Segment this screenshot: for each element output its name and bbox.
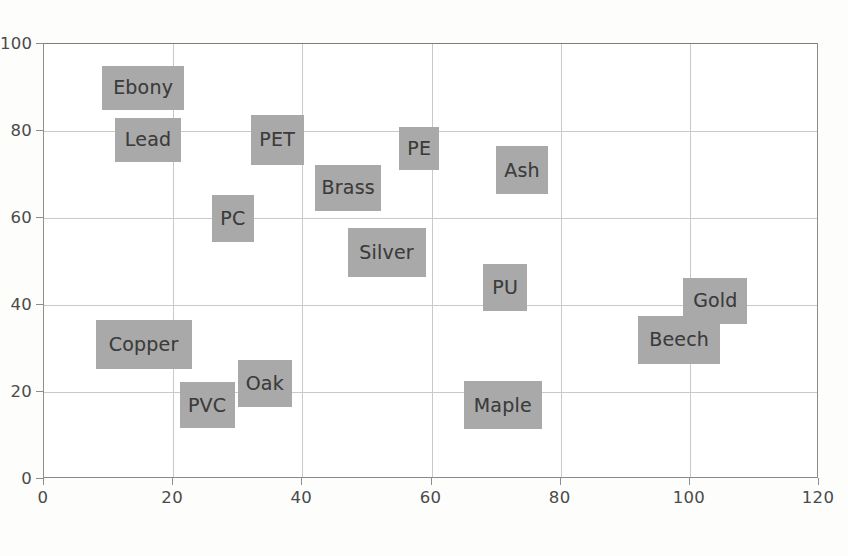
scatter-chart: EbonyLeadPETPEAshBrassPCSilverPUGoldBeec… <box>0 0 848 556</box>
x-tick-label: 100 <box>673 488 705 507</box>
data-point-label: PE <box>399 127 439 170</box>
x-tick-label: 20 <box>161 488 183 507</box>
y-tick-mark <box>36 43 44 44</box>
y-tick-mark <box>36 391 44 392</box>
x-tick-label: 80 <box>549 488 571 507</box>
data-point-label: Silver <box>348 228 426 277</box>
x-tick-label: 60 <box>420 488 442 507</box>
gridline-vertical <box>302 44 303 477</box>
x-tick-mark <box>301 478 302 485</box>
plot-area: EbonyLeadPETPEAshBrassPCSilverPUGoldBeec… <box>43 43 818 478</box>
x-tick-label: 40 <box>291 488 313 507</box>
y-tick-label: 60 <box>0 208 32 227</box>
gridline-vertical <box>561 44 562 477</box>
x-tick-label: 0 <box>38 488 49 507</box>
x-tick-mark <box>689 478 690 485</box>
data-point-label: Ash <box>496 146 548 194</box>
data-point-label: PET <box>251 115 304 165</box>
data-point-label: PVC <box>180 382 235 428</box>
data-point-label: Brass <box>315 165 381 211</box>
y-tick-label: 80 <box>0 121 32 140</box>
y-tick-mark <box>36 478 44 479</box>
x-tick-mark <box>431 478 432 485</box>
gridline-vertical <box>432 44 433 477</box>
y-tick-mark <box>36 217 44 218</box>
x-tick-mark <box>172 478 173 485</box>
y-tick-mark <box>36 304 44 305</box>
data-point-label: Oak <box>238 360 292 407</box>
x-tick-mark <box>43 478 44 485</box>
x-tick-label: 120 <box>802 488 834 507</box>
data-point-label: PC <box>212 195 254 242</box>
x-tick-mark <box>560 478 561 485</box>
data-point-label: Lead <box>115 118 181 162</box>
y-tick-label: 100 <box>0 34 32 53</box>
y-tick-label: 40 <box>0 295 32 314</box>
gridline-horizontal <box>44 392 817 393</box>
data-point-label: PU <box>483 264 527 311</box>
data-point-label: Ebony <box>102 66 184 110</box>
y-tick-label: 20 <box>0 382 32 401</box>
gridline-horizontal <box>44 218 817 219</box>
data-point-label: Copper <box>96 320 192 369</box>
x-tick-mark <box>818 478 819 485</box>
data-point-label: Beech <box>638 316 720 364</box>
data-point-label: Maple <box>464 381 542 429</box>
y-tick-label: 0 <box>0 469 32 488</box>
gridline-vertical <box>690 44 691 477</box>
y-tick-mark <box>36 130 44 131</box>
